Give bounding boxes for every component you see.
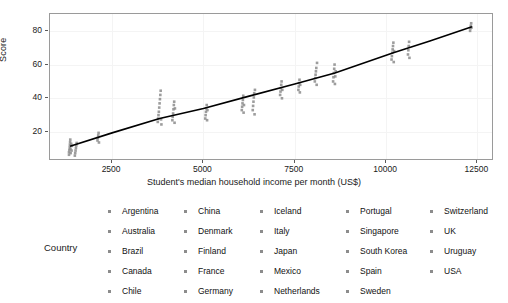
- legend-marker-icon: [256, 286, 267, 297]
- data-point: [407, 53, 410, 56]
- legend-marker-icon: [426, 246, 437, 257]
- legend-item[interactable]: China: [180, 201, 256, 221]
- legend-label: Sweden: [360, 286, 391, 296]
- legend-label: China: [198, 206, 220, 216]
- data-point: [242, 99, 245, 102]
- legend-item[interactable]: Netherlands: [256, 281, 342, 301]
- legend-label: France: [198, 266, 224, 276]
- legend-marker-icon: [256, 266, 267, 277]
- data-point: [316, 62, 319, 65]
- data-point: [333, 63, 336, 66]
- x-tick-mark: [294, 160, 295, 163]
- legend-marker-icon: [256, 246, 267, 257]
- legend-dot: [430, 250, 433, 253]
- legend-marker-icon: [180, 206, 191, 217]
- y-tick-mark: [45, 97, 48, 98]
- legend-label: Spain: [360, 266, 382, 276]
- data-point: [160, 123, 163, 126]
- legend-label: Singapore: [360, 226, 399, 236]
- legend-dot: [184, 230, 187, 233]
- legend-item[interactable]: UK: [426, 221, 508, 241]
- data-point: [280, 80, 283, 83]
- data-point: [205, 104, 208, 107]
- data-point: [158, 110, 161, 113]
- legend-marker-icon: [180, 226, 191, 237]
- data-point: [240, 109, 243, 112]
- data-point: [334, 83, 337, 86]
- plot-panel: [49, 13, 493, 160]
- legend-dot: [108, 230, 111, 233]
- x-tick-label: 7500: [274, 165, 314, 174]
- data-point: [173, 121, 176, 124]
- legend-dot: [108, 270, 111, 273]
- legend-label: South Korea: [360, 246, 407, 256]
- data-point: [70, 149, 73, 152]
- legend-marker-icon: [342, 206, 353, 217]
- data-point: [299, 91, 302, 94]
- legend-label: Finland: [198, 246, 226, 256]
- legend-dot: [430, 210, 433, 213]
- legend-dot: [108, 250, 111, 253]
- legend-marker-icon: [104, 286, 115, 297]
- legend-label: Japan: [274, 246, 297, 256]
- data-point: [332, 80, 335, 83]
- legend-marker-icon: [342, 266, 353, 277]
- data-point: [206, 109, 209, 112]
- legend-item[interactable]: Italy: [256, 221, 342, 241]
- legend-item[interactable]: Japan: [256, 241, 342, 261]
- legend-item[interactable]: Argentina: [104, 201, 180, 221]
- data-point: [157, 114, 160, 117]
- legend-item[interactable]: Canada: [104, 261, 180, 281]
- legend-item[interactable]: Chile: [104, 281, 180, 301]
- legend-item[interactable]: Uruguay: [426, 241, 508, 261]
- y-axis-title: Score: [0, 37, 8, 62]
- legend-columns: ArgentinaAustraliaBrazilCanadaChileChina…: [104, 201, 508, 301]
- data-point: [173, 104, 176, 107]
- legend-item[interactable]: Portugal: [342, 201, 426, 221]
- legend-dot: [430, 230, 433, 233]
- legend-dot: [346, 250, 349, 253]
- x-tick-mark: [385, 160, 386, 163]
- x-axis-title: Student's median household income per mo…: [0, 177, 508, 187]
- legend-label: Canada: [122, 266, 152, 276]
- legend-item[interactable]: Switzerland: [426, 201, 508, 221]
- legend-label: Italy: [274, 226, 290, 236]
- data-point: [253, 96, 256, 99]
- x-tick-label: 2500: [91, 165, 131, 174]
- data-point: [158, 102, 161, 105]
- data-point: [251, 109, 254, 112]
- legend-item[interactable]: Brazil: [104, 241, 180, 261]
- legend-item[interactable]: Germany: [180, 281, 256, 301]
- legend-marker-icon: [180, 286, 191, 297]
- y-tick-label: 80: [20, 26, 42, 34]
- x-tick-label: 5000: [182, 165, 222, 174]
- legend-marker-icon: [180, 266, 191, 277]
- legend-label: Uruguay: [444, 246, 476, 256]
- legend-item[interactable]: South Korea: [342, 241, 426, 261]
- legend-dot: [346, 290, 349, 293]
- legend-marker-icon: [426, 206, 437, 217]
- legend-item[interactable]: Spain: [342, 261, 426, 281]
- legend-dot: [184, 250, 187, 253]
- legend-item[interactable]: Sweden: [342, 281, 426, 301]
- legend-item[interactable]: Denmark: [180, 221, 256, 241]
- data-point: [297, 89, 300, 92]
- data-point: [173, 100, 176, 103]
- legend-item[interactable]: Mexico: [256, 261, 342, 281]
- trend-line: [70, 27, 472, 147]
- legend-label: Portugal: [360, 206, 392, 216]
- legend-marker-icon: [426, 266, 437, 277]
- legend-item[interactable]: Singapore: [342, 221, 426, 241]
- legend-marker-icon: [104, 226, 115, 237]
- legend-item[interactable]: France: [180, 261, 256, 281]
- x-tick-label: 12500: [456, 165, 496, 174]
- legend-item[interactable]: USA: [426, 261, 508, 281]
- data-point: [74, 152, 77, 155]
- x-tick-label: 10000: [365, 165, 405, 174]
- legend-label: Denmark: [198, 226, 232, 236]
- legend-item[interactable]: Australia: [104, 221, 180, 241]
- x-tick-mark: [202, 160, 203, 163]
- legend-label: Chile: [122, 286, 141, 296]
- legend-item[interactable]: Finland: [180, 241, 256, 261]
- legend-item[interactable]: Iceland: [256, 201, 342, 221]
